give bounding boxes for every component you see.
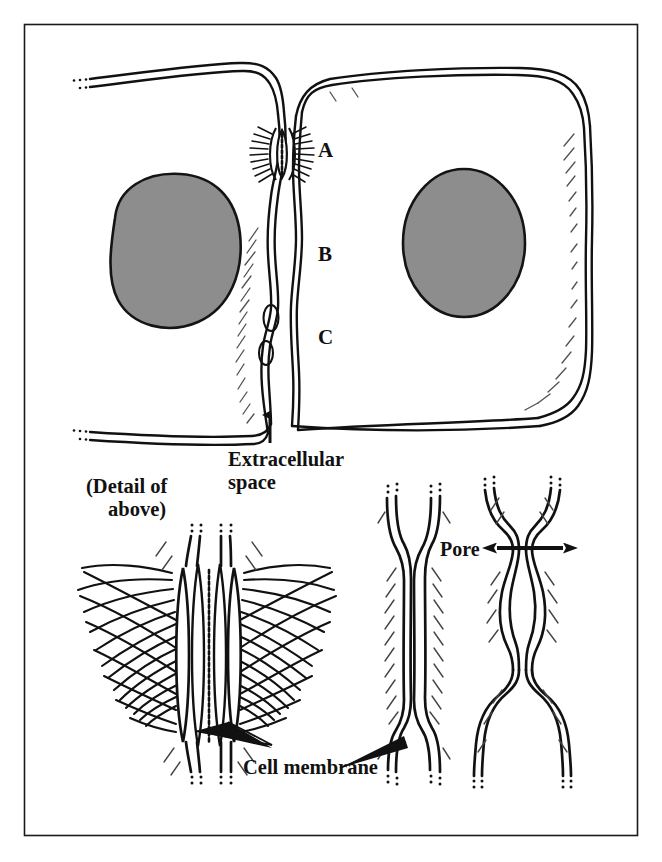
detail-caption-line2: above) — [108, 498, 166, 521]
extracellular-space-label-line2: space — [228, 471, 276, 494]
desmosome-inner-left — [192, 564, 204, 746]
left-cell-nucleus — [110, 174, 240, 328]
figure-root: A B C Extracellular space (Detail of abo… — [0, 0, 662, 862]
label-junction-a: A — [318, 138, 334, 162]
right-cell-nucleus — [403, 169, 525, 317]
label-junction-b: B — [318, 242, 332, 266]
label-junction-c: C — [318, 325, 333, 349]
cell-junction-diagram: A B C Extracellular space (Detail of abo… — [0, 0, 662, 862]
detail-caption-line1: (Detail of — [86, 475, 169, 498]
desmosome-inner-right — [214, 564, 226, 746]
desmosome-junction-a — [250, 127, 314, 182]
extracellular-space-label-line1: Extracellular — [228, 448, 344, 470]
desmosome-plaque-left — [176, 568, 189, 742]
page-background — [0, 0, 662, 862]
pore-label: Pore — [440, 538, 480, 560]
desmosome-plaque-right — [228, 568, 241, 742]
